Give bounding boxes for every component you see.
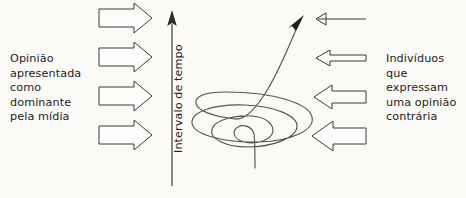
spiral-of-silence-diagram: Opinião apresentada como dominante pela …	[0, 0, 466, 198]
dissent-arrow-3-icon	[314, 85, 366, 109]
spiral-curve-group	[192, 15, 312, 168]
right-arrow-group	[312, 13, 366, 151]
spiral-of-silence-curve	[192, 21, 312, 168]
dissent-arrow-2-icon	[316, 50, 366, 66]
media-arrow-1-icon	[99, 3, 152, 33]
time-axis	[167, 10, 177, 186]
time-axis-arrowhead-icon	[167, 10, 177, 26]
spiral-arrowhead-icon	[288, 15, 304, 31]
media-arrow-3-icon	[99, 81, 152, 111]
dissent-arrow-1-icon	[316, 13, 366, 25]
dissent-arrow-4-icon	[312, 121, 366, 151]
left-arrow-group	[99, 3, 152, 150]
media-arrow-2-icon	[99, 42, 152, 72]
media-arrow-4-icon	[99, 120, 152, 150]
